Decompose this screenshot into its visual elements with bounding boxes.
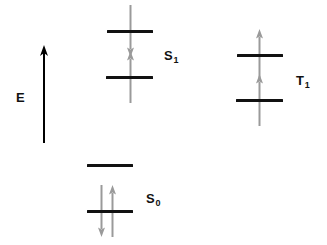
state-label-t1: T1 <box>296 74 309 87</box>
t1-upper-level <box>237 54 283 57</box>
state-subscript: 1 <box>305 80 310 90</box>
state-group-t1: T1 <box>0 0 327 245</box>
energy-level-diagram: E S0S1T1 <box>0 0 327 245</box>
t1-lower-level <box>236 99 283 102</box>
state-symbol: T <box>296 73 304 88</box>
